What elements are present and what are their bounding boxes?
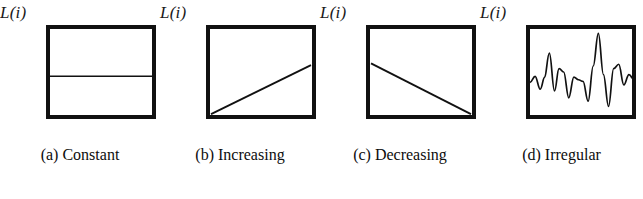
caption-increasing: (b) Increasing [160, 144, 320, 166]
caption-decreasing: (c) Decreasing [320, 144, 480, 166]
figure-container: L(i) (a) Constant L(i) (b) Increasing L(… [0, 0, 643, 199]
curve-increasing [210, 29, 312, 115]
panel-irregular: L(i) (d) Irregular [480, 0, 643, 199]
plot-box-constant [46, 25, 156, 119]
plot-box-decreasing [366, 25, 476, 119]
axis-label-irregular: L(i) [480, 3, 506, 23]
curve-constant [50, 29, 152, 115]
axis-label-decreasing: L(i) [320, 3, 346, 23]
panel-decreasing: L(i) (c) Decreasing [320, 0, 480, 199]
panel-increasing: L(i) (b) Increasing [160, 0, 320, 199]
curve-decreasing [370, 29, 472, 115]
axis-label-constant: L(i) [0, 3, 26, 23]
plot-box-increasing [206, 25, 316, 119]
caption-irregular: (d) Irregular [480, 144, 643, 166]
curve-irregular [530, 29, 632, 115]
panel-constant: L(i) (a) Constant [0, 0, 160, 199]
caption-constant: (a) Constant [0, 144, 160, 166]
axis-label-increasing: L(i) [160, 3, 186, 23]
plot-box-irregular [526, 25, 636, 119]
